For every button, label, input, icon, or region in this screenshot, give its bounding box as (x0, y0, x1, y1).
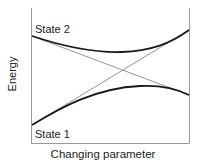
avoided-crossing-diagram: State 2 State 1 Energy Changing paramete… (0, 0, 198, 160)
state-1-label: State 1 (35, 128, 70, 140)
state-2-label: State 2 (35, 23, 70, 35)
x-axis-label: Changing parameter (51, 148, 156, 160)
lower-adiabatic-curve (32, 86, 189, 125)
y-axis-label: Energy (6, 56, 18, 91)
diabatic-line-descending (32, 36, 189, 95)
